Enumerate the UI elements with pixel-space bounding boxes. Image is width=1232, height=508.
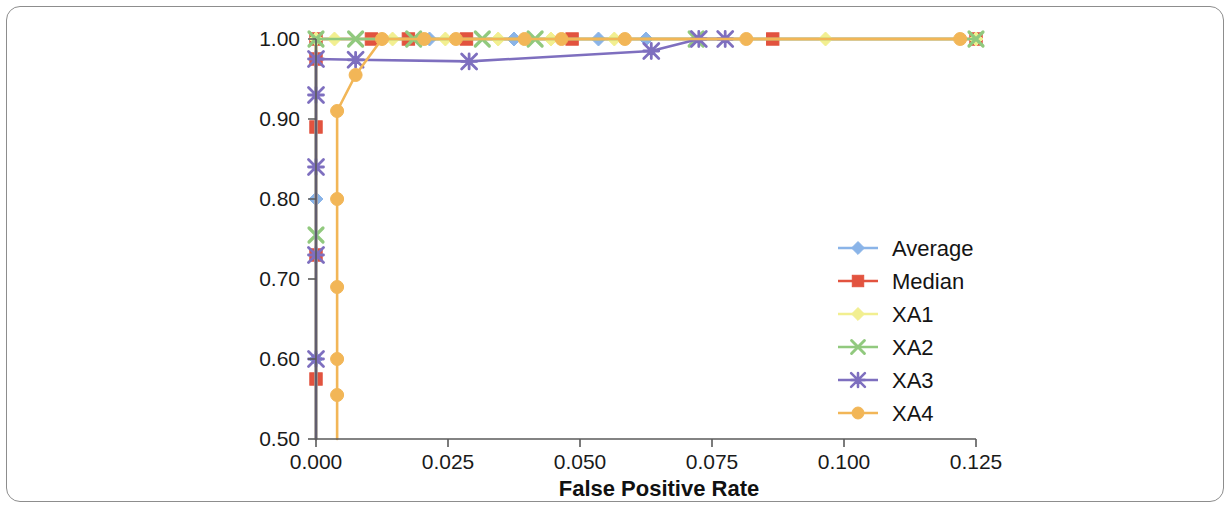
x-tick-label: 0.025 [422,450,475,473]
data-point-asterisk [851,373,865,387]
data-point-circle [954,33,967,46]
y-tick-label: 0.80 [259,187,300,210]
y-tick-label: 0.50 [259,427,300,450]
data-point-circle [331,281,344,294]
y-tick-label: 0.70 [259,267,300,290]
legend-label: Median [892,269,964,294]
legend-label: XA3 [892,368,934,393]
data-point-asterisk [462,54,477,69]
series-layer [309,32,984,440]
x-tick-label: 0.100 [818,450,871,473]
x-tick-label: 0.050 [554,450,607,473]
legend-item-median[interactable]: Median [838,269,964,294]
legend-item-xa3[interactable]: XA3 [838,368,934,393]
data-point-circle [331,389,344,402]
data-point-circle [852,407,864,419]
y-tick-label: 1.00 [259,27,300,50]
x-axis-title: False Positive Rate [559,476,760,501]
x-tick-label: 0.075 [686,450,739,473]
data-point-asterisk [644,44,659,59]
legend-label: XA2 [892,335,934,360]
series-line-xa3 [316,39,725,439]
series-median [310,33,982,439]
legend-item-xa2[interactable]: XA2 [838,335,934,360]
data-point-diamond [852,242,865,255]
legend-label: XA1 [892,302,934,327]
data-point-circle [418,33,431,46]
chart-svg: 0.0000.0250.0500.0750.1000.125 0.500.600… [7,7,1224,502]
data-point-circle [555,33,568,46]
series-xa1 [309,32,983,439]
legend-item-xa1[interactable]: XA1 [838,302,934,327]
legend: AverageMedianXA1XA2XA3XA4 [838,236,974,426]
series-xa3 [309,32,733,440]
data-point-circle [618,33,631,46]
x-tick-label: 0.125 [950,450,1003,473]
data-point-circle [518,33,531,46]
roc-chart: 0.0000.0250.0500.0750.1000.125 0.500.600… [7,7,1224,502]
y-tick-label: 0.90 [259,107,300,130]
data-point-circle [349,69,362,82]
figure-frame: 0.0000.0250.0500.0750.1000.125 0.500.600… [6,6,1224,502]
data-point-circle [331,105,344,118]
x-tick-labels: 0.0000.0250.0500.0750.1000.125 [290,439,1003,473]
data-point-circle [449,33,462,46]
series-xa4 [331,33,967,440]
series-average [309,32,983,439]
y-tick-label: 0.60 [259,347,300,370]
legend-label: Average [892,236,974,261]
x-tick-label: 0.000 [290,450,343,473]
data-point-circle [740,33,753,46]
legend-item-xa4[interactable]: XA4 [838,401,934,426]
data-point-diamond [852,308,865,321]
legend-item-average[interactable]: Average [838,236,974,261]
data-point-circle [331,353,344,366]
data-point-square [852,275,863,286]
data-point-asterisk [348,52,363,67]
series-xa2 [309,32,983,439]
data-point-circle [331,193,344,206]
data-point-circle [376,33,389,46]
legend-label: XA4 [892,401,934,426]
y-tick-labels: 0.500.600.700.800.901.00 [259,27,316,450]
